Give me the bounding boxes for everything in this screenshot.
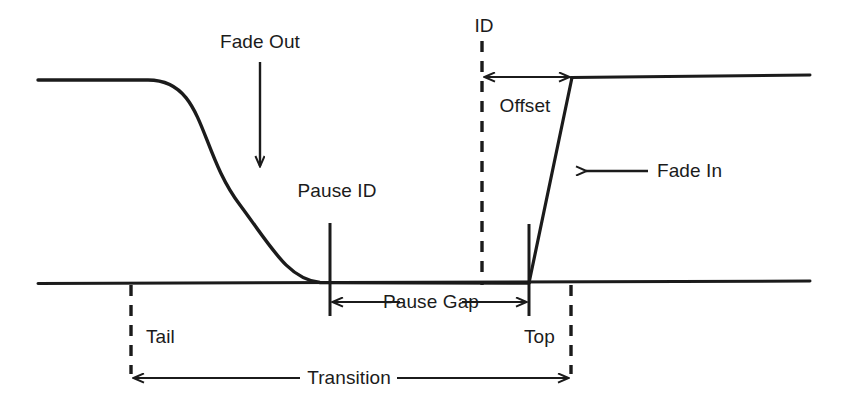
tail-label: Tail bbox=[146, 327, 175, 346]
pause-id-label: Pause ID bbox=[298, 181, 377, 200]
transition-diagram: Fade Out ID Offset Fade In Pause ID Paus… bbox=[0, 0, 843, 419]
fade-in-plateau bbox=[571, 75, 810, 78]
fade-out-curve bbox=[38, 80, 529, 283]
baseline bbox=[38, 281, 810, 284]
fade-in-label: Fade In bbox=[657, 161, 722, 180]
fade-out-label: Fade Out bbox=[220, 32, 300, 51]
pause-gap-label: Pause Gap bbox=[383, 292, 479, 311]
diagram-canvas bbox=[0, 0, 843, 419]
transition-label: Transition bbox=[307, 368, 391, 387]
top-label: Top bbox=[524, 327, 555, 346]
id-label: ID bbox=[474, 16, 493, 35]
offset-label: Offset bbox=[500, 96, 551, 115]
